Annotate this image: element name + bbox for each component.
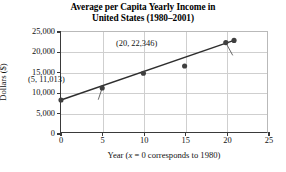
chart-title-line-1: Average per Capita Yearly Income in bbox=[36, 2, 250, 13]
annotation-point-5: (5, 11,013) bbox=[28, 76, 65, 84]
data-point bbox=[100, 85, 105, 90]
data-point bbox=[58, 97, 63, 102]
y-tick-label: 10,000 bbox=[32, 89, 55, 97]
y-tick-label: 20,000 bbox=[32, 48, 55, 56]
data-point bbox=[223, 40, 228, 45]
annotation-point-20: (20, 22,346) bbox=[116, 40, 157, 48]
annotation-leader-line bbox=[226, 44, 232, 56]
trend-line bbox=[61, 40, 234, 100]
x-tick-label: 5 bbox=[101, 137, 105, 145]
chart-title: Average per Capita Yearly Income in Unit… bbox=[36, 2, 250, 24]
data-point bbox=[231, 38, 236, 43]
data-point bbox=[141, 71, 146, 76]
x-tick-label: 10 bbox=[140, 137, 148, 145]
x-axis-title-prefix: Year ( bbox=[108, 150, 129, 160]
x-tick-label: 15 bbox=[182, 137, 190, 145]
chart-title-line-2: United States (1980–2001) bbox=[36, 13, 250, 24]
x-tick-label: 25 bbox=[265, 137, 273, 145]
x-tick-label: 20 bbox=[223, 137, 231, 145]
data-point bbox=[182, 63, 187, 68]
x-axis-title: Year (x = 0 corresponds to 1980) bbox=[60, 150, 268, 160]
x-tick-label: 0 bbox=[59, 137, 63, 145]
chart-figure: Average per Capita Yearly Income in Unit… bbox=[0, 0, 286, 172]
x-axis-title-suffix: = 0 corresponds to 1980) bbox=[132, 150, 220, 160]
y-tick-label: 25,000 bbox=[32, 28, 55, 36]
plot-area: 05,00010,00015,00020,00025,000 051015202… bbox=[60, 31, 268, 133]
y-tick-label: 5,000 bbox=[36, 109, 55, 117]
y-axis-title: Dollars ($) bbox=[0, 63, 8, 100]
y-tick-label: 0 bbox=[51, 130, 55, 138]
data-series-layer bbox=[61, 32, 267, 132]
